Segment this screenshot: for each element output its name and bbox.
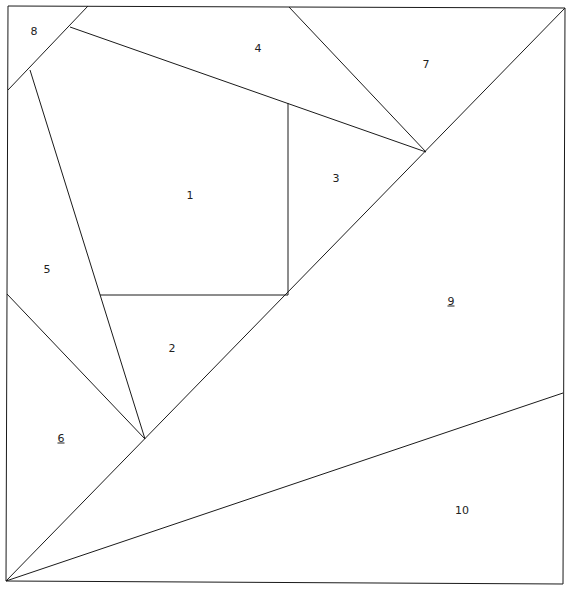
dividing-line xyxy=(6,393,563,581)
region-label-3: 3 xyxy=(333,173,340,184)
dividing-line xyxy=(30,70,145,439)
region-label-1: 1 xyxy=(187,190,194,201)
dividing-line xyxy=(70,27,426,152)
dividing-line xyxy=(8,6,88,90)
region-label-10: 10 xyxy=(455,505,469,516)
dividing-lines xyxy=(6,6,565,581)
dissection-diagram xyxy=(0,0,568,590)
dividing-line xyxy=(7,294,145,439)
region-label-8: 8 xyxy=(31,26,38,37)
region-label-6: 6 xyxy=(58,433,65,444)
region-label-9: 9 xyxy=(448,296,455,307)
region-label-7: 7 xyxy=(423,59,430,70)
region-label-4: 4 xyxy=(255,43,262,54)
region-label-2: 2 xyxy=(169,343,176,354)
region-label-5: 5 xyxy=(44,264,51,275)
dividing-line xyxy=(289,7,426,152)
